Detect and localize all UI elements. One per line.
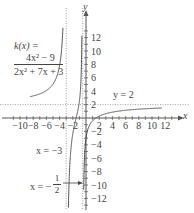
y-tick-label: −6 [91,153,102,164]
y-tick-label: −2 [91,126,102,137]
horizontal-asymptote-label: y = 2 [113,90,134,100]
x-tick-label: −8 [28,120,39,131]
pointer-arrow-icon [78,181,83,185]
fraction-numerator: 1 [53,174,61,183]
x-tick-label: 10 [147,120,157,131]
function-denominator: 2x² + 7x + 3 [14,64,63,77]
x-tick-label: −10 [12,120,28,131]
y-tick-label: −4 [91,139,102,150]
y-tick-label: 8 [91,59,96,70]
y-tick-label: 4 [91,86,96,97]
y-tick-label: 10 [91,46,101,57]
x-axis-label: x [183,111,187,121]
function-numerator: 4x² − 9 [26,53,55,63]
y-tick-label: −12 [91,193,107,204]
vertical-asymptote-fraction: 1 2 [53,174,61,195]
x-tick-label: 4 [110,120,115,131]
x-tick-label: 8 [136,120,141,131]
vertical-asymptote-label-2: x = − [30,182,51,192]
y-tick-label: −10 [91,180,107,191]
x-tick-label: 12 [160,120,170,131]
function-name-label: k(x) = [14,41,39,51]
x-tick-label: −6 [41,120,52,131]
vertical-asymptote-label-1: x = −3 [36,146,62,156]
y-tick-label: 12 [91,32,101,43]
x-tick-label: −4 [54,120,65,131]
x-tick-label: 6 [123,120,128,131]
x-tick-label: −2 [67,120,78,131]
y-tick-label: 2 [91,99,96,110]
y-tick-label: −8 [91,166,102,177]
y-axis-label: y [83,2,87,12]
fraction-denominator: 2 [53,186,61,195]
y-tick-label: 6 [91,72,96,83]
